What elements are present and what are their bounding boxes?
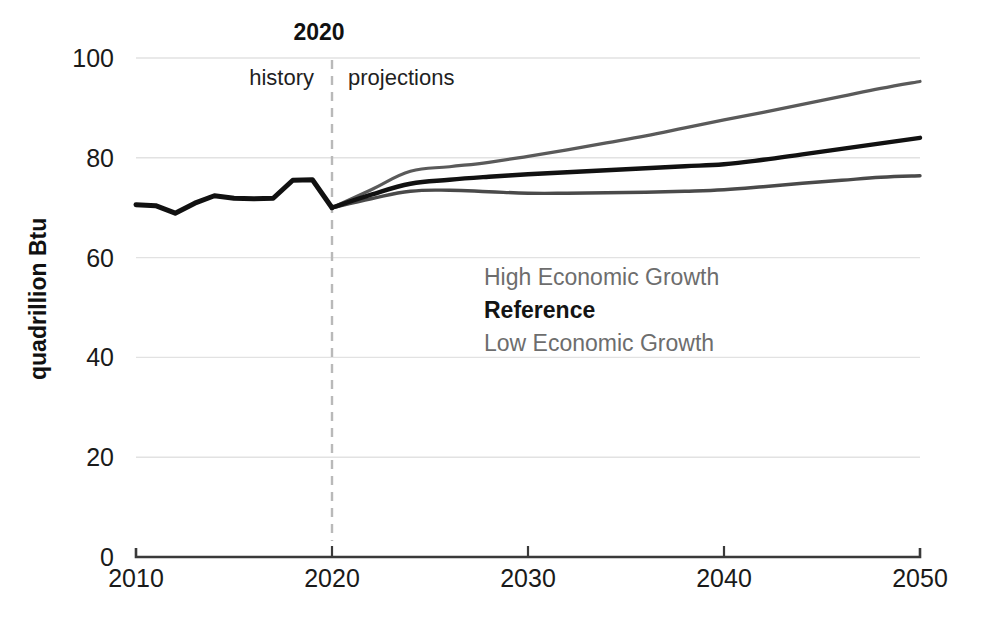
x-tick-label: 2050 [892,564,948,592]
x-tick-label: 2040 [696,564,752,592]
divider-year-label: 2020 [293,19,344,45]
y-tick-label: 100 [72,44,114,72]
chart-container: 020406080100 20102020203020402050 quadri… [0,0,996,635]
series-line-reference [332,138,920,208]
legend-item-low-economic-growth: Low Economic Growth [484,330,714,356]
gridlines [136,58,920,457]
history-projection-divider: 2020 history projections [249,19,454,541]
y-tick-label: 40 [86,343,114,371]
y-axis-title: quadrillion Btu [25,218,51,380]
y-axis-tick-labels: 020406080100 [72,44,114,571]
x-tick-label: 2030 [500,564,556,592]
x-tick-label: 2010 [108,564,164,592]
legend-item-high-economic-growth: High Economic Growth [484,264,719,290]
series-line-history [136,180,332,213]
y-tick-label: 20 [86,443,114,471]
projections-label: projections [348,65,454,90]
y-tick-label: 80 [86,144,114,172]
legend: High Economic GrowthReferenceLow Economi… [484,264,719,356]
legend-item-reference: Reference [484,297,595,323]
history-label: history [249,65,314,90]
x-axis: 20102020203020402050 [108,546,948,592]
x-tick-label: 2020 [304,564,360,592]
x-axis-tick-labels: 20102020203020402050 [108,564,948,592]
line-chart: 020406080100 20102020203020402050 quadri… [0,0,996,635]
x-axis-tick-marks [332,546,724,557]
series-lines [136,81,920,213]
y-tick-label: 60 [86,244,114,272]
